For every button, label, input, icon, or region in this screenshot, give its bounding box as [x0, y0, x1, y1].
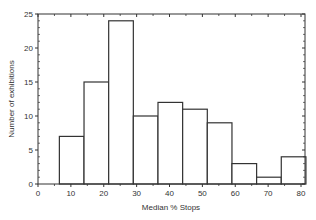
- x-tick-label: 10: [66, 189, 75, 198]
- histogram-bar: [84, 82, 109, 184]
- y-tick-label: 15: [24, 78, 33, 87]
- histogram-bar: [158, 102, 183, 184]
- histogram-bar: [257, 177, 282, 184]
- y-tick-label: 25: [24, 10, 33, 19]
- histogram-bars: [59, 21, 306, 184]
- histogram-bar: [183, 109, 208, 184]
- x-tick-label: 30: [132, 189, 141, 198]
- x-tick-label: 0: [36, 189, 41, 198]
- histogram-bar: [207, 123, 232, 184]
- y-axis-label: Number of exhibitions: [7, 60, 16, 137]
- histogram-bar: [281, 157, 306, 184]
- x-tick-label: 40: [165, 189, 174, 198]
- x-tick-label: 70: [264, 189, 273, 198]
- y-tick-label: 5: [29, 146, 34, 155]
- histogram-bar: [59, 136, 84, 184]
- y-tick-label: 20: [24, 44, 33, 53]
- x-axis-label: Median % Stops: [142, 203, 200, 212]
- histogram-bar: [232, 164, 257, 184]
- histogram-chart: 01020304050607080 0510152025 Median % St…: [0, 0, 316, 220]
- x-tick-label: 60: [231, 189, 240, 198]
- histogram-bar: [109, 21, 134, 184]
- x-tick-label: 50: [198, 189, 207, 198]
- x-tick-label: 80: [297, 189, 306, 198]
- y-tick-label: 10: [24, 112, 33, 121]
- histogram-bar: [133, 116, 158, 184]
- x-tick-label: 20: [99, 189, 108, 198]
- y-tick-label: 0: [29, 180, 34, 189]
